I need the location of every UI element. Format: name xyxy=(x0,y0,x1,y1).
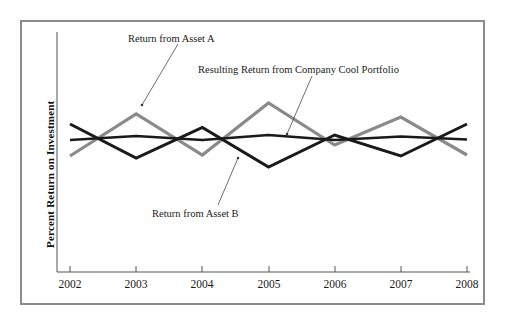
annotation-portfolio: Resulting Return from Company Cool Portf… xyxy=(198,64,399,75)
y-axis-title: Percent Return on Investment xyxy=(44,101,56,248)
x-tick-label-2006: 2006 xyxy=(312,278,358,290)
leader-dot-asset-b xyxy=(237,157,240,160)
x-tick-label-2002: 2002 xyxy=(47,278,93,290)
x-tick-label-2005: 2005 xyxy=(246,278,292,290)
leader-line-portfolio xyxy=(287,76,312,134)
x-axis-ticks xyxy=(70,266,467,272)
annotation-asset-b: Return from Asset B xyxy=(152,208,239,219)
leader-line-asset-b xyxy=(218,158,238,205)
series-line-asset-a xyxy=(70,103,467,156)
series-line-portfolio xyxy=(70,135,467,140)
annotation-asset-a: Return from Asset A xyxy=(128,33,215,44)
leader-dot-portfolio xyxy=(286,133,289,136)
x-tick-label-2004: 2004 xyxy=(179,278,225,290)
x-tick-label-2008: 2008 xyxy=(444,278,490,290)
leader-dot-asset-a xyxy=(141,104,144,107)
series-line-asset-b xyxy=(70,124,467,167)
leader-line-asset-a xyxy=(142,44,178,105)
x-tick-label-2007: 2007 xyxy=(378,278,424,290)
x-tick-label-2003: 2003 xyxy=(113,278,159,290)
